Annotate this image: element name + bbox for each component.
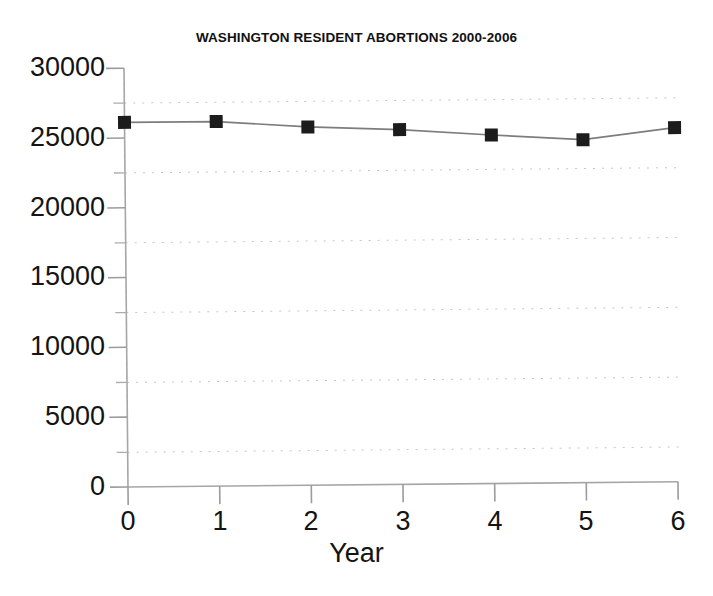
x-axis-title: Year: [0, 538, 713, 569]
gridlines: [124, 98, 685, 453]
data-point: [118, 116, 131, 129]
xtick-label-2: 2: [291, 508, 331, 535]
data-point: [301, 120, 314, 133]
xtick-label-1: 1: [200, 508, 240, 535]
data-point: [393, 123, 406, 136]
xtick-label-6: 6: [658, 508, 698, 535]
xtick-label-3: 3: [383, 508, 423, 535]
xtick-label-0: 0: [108, 508, 148, 535]
ytick-label-15000: 15000: [0, 263, 105, 290]
ytick-label-30000: 30000: [0, 54, 105, 81]
x-ticks: [128, 482, 678, 505]
chart-figure: WASHINGTON RESIDENT ABORTIONS 2000-2006: [0, 0, 713, 596]
ytick-label-20000: 20000: [0, 194, 105, 221]
data-point: [210, 115, 223, 128]
data-point: [576, 133, 589, 146]
data-point: [668, 121, 681, 134]
data-markers: [118, 111, 681, 151]
ytick-label-25000: 25000: [0, 124, 105, 151]
ytick-label-10000: 10000: [0, 333, 105, 360]
data-point: [485, 128, 498, 141]
xtick-label-5: 5: [566, 508, 606, 535]
xtick-label-4: 4: [475, 508, 515, 535]
ytick-label-0: 0: [0, 473, 105, 500]
ytick-label-5000: 5000: [0, 403, 105, 430]
plot-area: [0, 0, 713, 596]
